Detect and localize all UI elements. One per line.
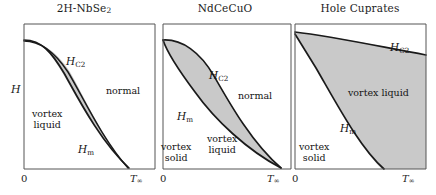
panel-ndcecuo: NdCeCuO 0 T∞ HC2 Hm normal vortex liquid <box>155 0 295 195</box>
panel-hole-cuprates-hm-label-text: H <box>340 122 349 134</box>
panel-ndcecuo-region-vortex-solid-line1: vortex <box>161 141 191 152</box>
panel-ndcecuo-x-tick-max-subscript: ∞ <box>274 177 280 185</box>
panel-ndcecuo-hm-label-subscript: m <box>186 115 193 124</box>
vortex-phase-diagram-figure: 2H-NbSe2 H 0 T∞ HC2 Hm normal vortex liq… <box>0 0 436 195</box>
panel-nbse2-hc2-label: HC2 <box>66 55 85 69</box>
panel-nbse2-hm-label-subscript: m <box>87 148 94 157</box>
panel-ndcecuo-region-vortex-solid-line2: solid <box>161 152 191 163</box>
panel-hole-cuprates-region-vortex-solid-line2: solid <box>299 152 329 163</box>
panel-ndcecuo-x-tick-zero: 0 <box>160 173 166 184</box>
panel-nbse2-hc2-label-text: H <box>66 55 75 67</box>
panel-ndcecuo-hc2-label-subscript: C2 <box>218 74 228 83</box>
panel-nbse2-y-axis-label: H <box>11 83 21 96</box>
panel-nbse2-region-normal: normal <box>106 85 140 96</box>
panel-ndcecuo-x-tick-max: T∞ <box>267 173 280 185</box>
panel-nbse2-x-tick-max-subscript: ∞ <box>137 177 143 185</box>
panel-ndcecuo-plot <box>155 0 295 195</box>
panel-nbse2-region-vortex-liquid-line1: vortex <box>32 108 62 119</box>
panel-nbse2-hm-label: Hm <box>78 143 94 157</box>
panel-hole-cuprates-region-vortex-liquid: vortex liquid <box>348 87 409 98</box>
panel-nbse2-region-vortex-liquid: vortex liquid <box>32 108 62 130</box>
panel-hole-cuprates-region-vortex-solid-line1: vortex <box>299 141 329 152</box>
panel-hole-cuprates-x-tick-max-subscript: ∞ <box>409 177 415 185</box>
panel-ndcecuo-region-vortex-solid: vortex solid <box>161 141 191 163</box>
panel-nbse2-region-vortex-liquid-line2: liquid <box>32 119 62 130</box>
panel-nbse2-plot <box>10 0 158 195</box>
panel-ndcecuo-x-tick-max-text: T <box>267 173 274 184</box>
panel-hole-cuprates-x-tick-max: T∞ <box>402 173 415 185</box>
panel-hole-cuprates: Hole Cuprates 0 T∞ HC2 Hm vortex liquid … <box>290 0 436 195</box>
panel-hole-cuprates-hc2-label-subscript: C2 <box>399 46 409 55</box>
panel-ndcecuo-region-vortex-liquid-line1: vortex <box>207 133 237 144</box>
panel-hole-cuprates-hc2-label: HC2 <box>390 41 409 55</box>
panel-ndcecuo-hc2-label-text: H <box>209 69 218 81</box>
panel-ndcecuo-region-vortex-liquid-line2: liquid <box>207 144 237 155</box>
panel-nbse2-x-tick-zero: 0 <box>21 173 27 184</box>
panel-nbse2-hc2-label-subscript: C2 <box>75 60 85 69</box>
panel-ndcecuo-hc2-label: HC2 <box>209 69 228 83</box>
panel-hole-cuprates-hm-label: Hm <box>340 122 356 136</box>
panel-ndcecuo-hm-label: Hm <box>177 110 193 124</box>
panel-ndcecuo-hm-label-text: H <box>177 110 186 122</box>
panel-ndcecuo-region-vortex-liquid: vortex liquid <box>207 133 237 155</box>
panel-nbse2-x-tick-max-text: T <box>130 173 137 184</box>
panel-nbse2-x-tick-max: T∞ <box>130 173 143 185</box>
panel-hole-cuprates-region-vortex-solid: vortex solid <box>299 141 329 163</box>
panel-hole-cuprates-hc2-label-text: H <box>390 41 399 53</box>
panel-hole-cuprates-hm-label-subscript: m <box>349 127 356 136</box>
panel-nbse2: 2H-NbSe2 H 0 T∞ HC2 Hm normal vortex liq… <box>10 0 158 195</box>
panel-hole-cuprates-x-tick-zero: 0 <box>292 173 298 184</box>
panel-hole-cuprates-x-tick-max-text: T <box>402 173 409 184</box>
panel-nbse2-hm-label-text: H <box>78 143 87 155</box>
panel-ndcecuo-region-normal: normal <box>238 90 272 101</box>
